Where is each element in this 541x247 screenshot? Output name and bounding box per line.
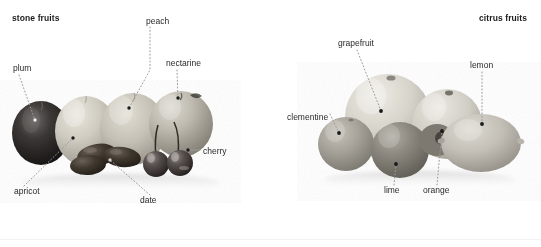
citrus-fruits-photo-cluster <box>318 74 524 189</box>
label-nectarine: nectarine <box>166 58 201 68</box>
lime-fruit <box>371 122 429 178</box>
label-cherry: cherry <box>203 146 227 156</box>
label-lemon: lemon <box>470 60 493 70</box>
label-apricot: apricot <box>14 186 40 196</box>
label-peach: peach <box>146 16 169 26</box>
fruit-figure: stone fruits citrus fruits peach nectari… <box>0 0 541 247</box>
clementine-fruit <box>318 117 374 171</box>
label-date: date <box>140 195 157 205</box>
fruit-illustration <box>0 0 541 247</box>
label-lime: lime <box>384 185 400 195</box>
group-title-citrus-fruits: citrus fruits <box>479 13 527 23</box>
label-orange: orange <box>423 185 449 195</box>
stone-fruits-photo-cluster <box>12 91 220 192</box>
baseline-rule <box>0 239 541 240</box>
label-grapefruit: grapefruit <box>338 38 374 48</box>
group-title-stone-fruits: stone fruits <box>12 13 59 23</box>
label-plum: plum <box>13 63 31 73</box>
label-clementine: clementine <box>287 112 328 122</box>
